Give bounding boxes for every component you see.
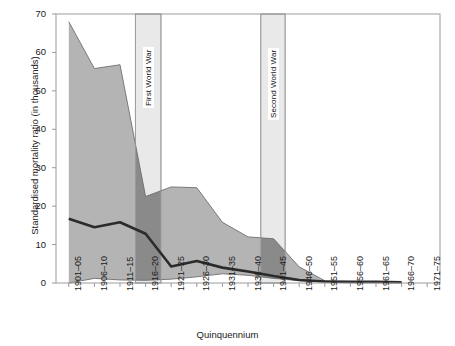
- x-tick-label: 1906–10: [99, 256, 109, 291]
- chart-figure: Standardised mortality ratio (in thousan…: [0, 0, 455, 346]
- x-tick-label: 1936–40: [253, 256, 263, 291]
- x-tick-label: 1931–35: [227, 256, 237, 291]
- x-tick-label: 1956–60: [355, 256, 365, 291]
- y-tick-label: 70: [22, 8, 46, 19]
- x-axis-title: Quinquennium: [0, 329, 455, 340]
- y-tick-label: 10: [22, 239, 46, 250]
- x-tick-label: 1926–30: [201, 256, 211, 291]
- x-tick-label: 1966–70: [406, 256, 416, 291]
- y-tick-label: 60: [22, 46, 46, 57]
- chart-plot-svg: [0, 0, 455, 346]
- x-tick-label: 1951–55: [329, 256, 339, 291]
- x-tick-label: 1911–15: [125, 257, 135, 291]
- x-tick-label: 1941–45: [278, 256, 288, 291]
- y-tick-label: 0: [22, 277, 46, 288]
- war-band-label-ww2: Second World War: [268, 48, 279, 120]
- y-tick-label: 40: [22, 123, 46, 134]
- y-tick-label: 30: [22, 162, 46, 173]
- x-tick-label: 1961–65: [381, 256, 391, 291]
- war-band-label-ww1: First World War: [143, 47, 154, 108]
- range-band-area: [69, 22, 402, 283]
- x-tick-label: 1901–05: [73, 256, 83, 291]
- x-tick-label: 1921–25: [176, 256, 186, 291]
- x-tick-label: 1946–50: [304, 256, 314, 291]
- x-tick-label: 1916–20: [150, 256, 160, 291]
- y-tick-label: 50: [22, 85, 46, 96]
- x-tick-label: 1971–75: [432, 256, 442, 291]
- y-tick-label: 20: [22, 200, 46, 211]
